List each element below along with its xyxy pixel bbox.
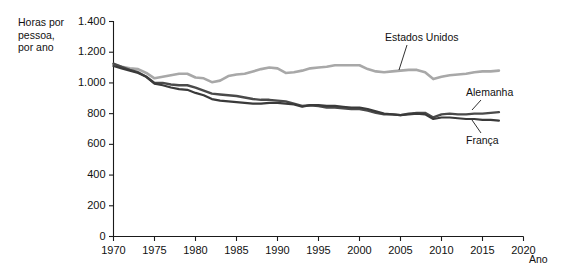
y-tick-label: 600 [60, 137, 106, 149]
annotation-alemanha: Alemanha [466, 86, 513, 98]
series-line-estados-unidos [114, 65, 499, 83]
x-tick-label: 2015 [462, 244, 504, 256]
chart-figure: Horas por pessoa, por ano 02004006008001… [0, 0, 568, 275]
x-tick-label: 2005 [380, 244, 422, 256]
leader-line-alemanha [472, 100, 481, 110]
annotation-franca: França [466, 134, 499, 146]
y-tick-label: 200 [60, 199, 106, 211]
x-tick-label: 1995 [298, 244, 340, 256]
annotation-estados-unidos: Estados Unidos [385, 31, 459, 43]
x-axis-title: Ano [529, 253, 548, 265]
x-tick-label: 1975 [134, 244, 176, 256]
x-tick-label: 2000 [339, 244, 381, 256]
leader-line-estados-unidos [399, 45, 407, 70]
x-tick-label: 1985 [216, 244, 258, 256]
y-tick-label: 1.400 [60, 15, 106, 27]
x-tick-label: 1980 [175, 244, 217, 256]
y-tick-label: 800 [60, 107, 106, 119]
y-tick-label: 400 [60, 168, 106, 180]
x-tick-label: 1970 [93, 244, 135, 256]
y-tick-label: 1.000 [60, 76, 106, 88]
axis-lines [114, 21, 524, 237]
x-tick-label: 1990 [257, 244, 299, 256]
y-tick-label: 0 [60, 230, 106, 242]
series-line-alemanha [114, 64, 499, 118]
leader-line-franca [472, 120, 481, 133]
y-tick-label: 1.200 [60, 45, 106, 57]
x-tick-label: 2010 [421, 244, 463, 256]
